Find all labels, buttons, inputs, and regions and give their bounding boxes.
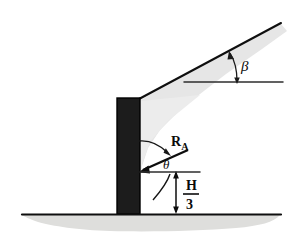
dimension-arrowhead-bottom: [173, 207, 179, 215]
retaining-wall-diagram: β θ RA H 3: [0, 0, 295, 240]
resultant-force-label: RA: [171, 134, 189, 152]
height-denominator-label: 3: [186, 197, 193, 212]
resultant-force-subscript: A: [181, 141, 189, 152]
beta-arc-arrowhead-bottom: [234, 78, 240, 85]
backfill-slope-line: [139, 23, 281, 99]
height-numerator-label: H: [186, 178, 197, 193]
ground-shading: [22, 215, 280, 231]
retaining-wall: [117, 98, 140, 214]
beta-label: β: [240, 58, 249, 74]
theta-label: θ: [163, 157, 170, 172]
dimension-leader-arc: [153, 174, 170, 200]
figure-canvas: β θ RA H 3: [0, 0, 295, 240]
